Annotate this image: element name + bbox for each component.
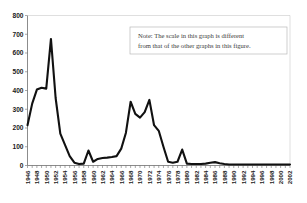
x-axis-tick-label: 1984 xyxy=(202,170,209,184)
x-axis-tick-label: 1980 xyxy=(183,170,190,184)
x-axis-tick-label: 1976 xyxy=(165,170,172,184)
x-axis-tick-label: 1950 xyxy=(43,170,50,184)
x-axis-tick-label: 1948 xyxy=(33,170,40,184)
y-axis-tick-label: 400 xyxy=(12,87,23,94)
x-axis-tick-label: 1956 xyxy=(71,170,78,184)
x-axis-tick-label: 1998 xyxy=(268,170,275,184)
y-axis-tick-label: 700 xyxy=(12,31,23,38)
x-axis-tick-label: 1972 xyxy=(146,170,153,184)
x-axis-tick-label: 1988 xyxy=(221,170,228,184)
y-axis-tick-label: 800 xyxy=(12,12,23,19)
line-chart-canvas: 0100200300400500600700800 19461948195019… xyxy=(0,0,307,203)
y-axis-tick-label: 100 xyxy=(12,143,23,150)
x-axis-tick-label: 1978 xyxy=(174,170,181,184)
x-axis-tick-label: 1992 xyxy=(240,170,247,184)
y-axis-tick-label: 600 xyxy=(12,49,23,56)
x-axis-tick-label: 1962 xyxy=(99,170,106,184)
data-series-line xyxy=(28,39,291,165)
x-axis-tick-label: 1970 xyxy=(136,170,143,184)
scale-note-line-1: Note: The scale in this graph is differe… xyxy=(138,32,244,39)
x-axis-tick-label: 1966 xyxy=(118,170,125,184)
y-axis-tick-label: 300 xyxy=(12,106,23,113)
x-axis-tick-label: 1946 xyxy=(24,170,31,184)
x-axis-tick-label: 1986 xyxy=(211,170,218,184)
scale-note-box: Note: The scale in this graph is differe… xyxy=(130,27,287,54)
x-axis-tick-label: 1954 xyxy=(61,170,68,184)
x-axis-tick-label: 2000 xyxy=(277,170,284,184)
scale-note-line-2: from that of the other graphs in this fi… xyxy=(138,42,251,49)
x-axis-tick-label: 1982 xyxy=(193,170,200,184)
x-axis-tick-label: 1958 xyxy=(80,170,87,184)
y-axis-tick-label: 0 xyxy=(20,162,24,169)
x-axis-tick-labels: 1946194819501952195419561958196019621964… xyxy=(24,170,294,184)
x-axis-tick-label: 1996 xyxy=(258,170,265,184)
x-axis-tick-label: 1952 xyxy=(52,170,59,184)
x-axis-tick-label: 2002 xyxy=(286,170,293,184)
chart-figure: 0100200300400500600700800 19461948195019… xyxy=(0,0,307,203)
y-axis-tick-label: 200 xyxy=(12,124,23,131)
x-axis-tick-label: 1968 xyxy=(127,170,134,184)
y-axis-tick-labels: 0100200300400500600700800 xyxy=(12,12,23,169)
x-axis-tick-label: 1964 xyxy=(108,170,115,184)
y-axis-tick-label: 500 xyxy=(12,68,23,75)
x-axis-tick-label: 1974 xyxy=(155,170,162,184)
x-axis-tick-label: 1994 xyxy=(249,170,256,184)
x-axis-tick-label: 1960 xyxy=(90,170,97,184)
x-axis-tick-label: 1990 xyxy=(230,170,237,184)
